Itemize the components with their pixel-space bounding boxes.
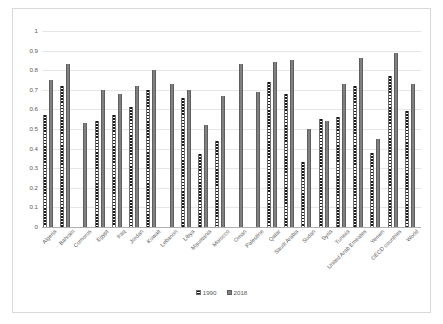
hatched-swatch [196, 290, 201, 295]
bar-1990 [336, 117, 340, 227]
x-tick-label: Qatar [268, 229, 282, 243]
bar-group [59, 31, 76, 227]
bar-2018 [49, 80, 53, 227]
x-tick-label: World [406, 229, 420, 243]
plot-area: 00.10.20.30.40.50.60.70.80.91 [42, 31, 421, 227]
y-tick-label: 0 [35, 224, 38, 230]
bar-group [128, 31, 145, 227]
chart-legend: 19902018 [13, 290, 430, 296]
bar-1990 [129, 107, 133, 227]
bar-group [352, 31, 369, 227]
bar-group [249, 31, 266, 227]
bar-1990 [146, 90, 150, 227]
y-tick-label: 0.7 [29, 87, 38, 93]
bar-group [94, 31, 111, 227]
bar-2018 [66, 64, 70, 227]
bar-1990 [112, 115, 116, 227]
bar-1990 [215, 141, 219, 227]
x-tick-label: Egypt [96, 229, 110, 243]
bar-group [335, 31, 352, 227]
bar-group [180, 31, 197, 227]
x-tick-label: Libya [183, 229, 196, 242]
solid-gray-swatch [227, 290, 232, 295]
bar-1990 [43, 115, 47, 227]
bar-group [232, 31, 249, 227]
bar-2018 [152, 70, 156, 227]
x-tick-label: Lebanon [160, 229, 179, 248]
y-tick-label: 0.5 [29, 126, 38, 132]
bar-1990 [388, 76, 392, 227]
bar-1990 [370, 153, 374, 227]
bar-2018 [170, 84, 174, 227]
bar-1990 [181, 98, 185, 227]
bar-group [369, 31, 386, 227]
x-tick-label: Algeria [42, 229, 58, 245]
bar-2018 [307, 129, 311, 227]
bar-2018 [83, 123, 87, 227]
bar-2018 [411, 84, 415, 227]
y-tick-label: 0.2 [29, 185, 38, 191]
bar-2018 [221, 96, 225, 227]
bar-group [300, 31, 317, 227]
bar-1990 [301, 162, 305, 227]
bar-1990 [284, 94, 288, 227]
bar-1990 [405, 111, 409, 227]
bar-group [145, 31, 162, 227]
x-tick-label: Jordan [128, 229, 144, 245]
bar-2018 [118, 94, 122, 227]
bar-group [197, 31, 214, 227]
bar-2018 [135, 86, 139, 227]
bar-1990 [95, 121, 99, 227]
bar-group [318, 31, 335, 227]
bars-layer [42, 31, 421, 227]
bar-1990 [198, 154, 202, 227]
bar-2018 [290, 60, 294, 227]
y-tick-label: 0.4 [29, 145, 38, 151]
bar-2018 [204, 125, 208, 227]
bar-2018 [239, 64, 243, 227]
bar-group [283, 31, 300, 227]
bar-2018 [101, 90, 105, 227]
bar-2018 [394, 53, 398, 227]
bar-group [111, 31, 128, 227]
bar-chart-figure: 00.10.20.30.40.50.60.70.80.91 AlgeriaBah… [12, 8, 431, 313]
bar-2018 [273, 62, 277, 227]
bar-2018 [187, 90, 191, 227]
bar-2018 [376, 139, 380, 227]
bar-2018 [325, 121, 329, 227]
x-tick-label: Iraq [116, 229, 127, 240]
bar-group [404, 31, 421, 227]
bar-group [42, 31, 59, 227]
bar-1990 [267, 82, 271, 227]
x-axis-labels: AlgeriaBahrainComorosEgyptIraqJordanKuwa… [42, 229, 421, 291]
x-tick-label: Syria [321, 229, 334, 242]
bar-2018 [256, 92, 260, 227]
legend-item[interactable]: 2018 [227, 290, 248, 296]
legend-item[interactable]: 1990 [196, 290, 217, 296]
bar-2018 [359, 58, 363, 227]
x-tick-label: Sudan [301, 229, 316, 244]
bar-group [163, 31, 180, 227]
y-tick-label: 0.3 [29, 165, 38, 171]
x-tick-label: Morocco [212, 229, 231, 248]
gridline [42, 227, 421, 228]
bar-1990 [353, 86, 357, 227]
y-tick-label: 0.9 [29, 47, 38, 53]
y-tick-label: 0.1 [29, 204, 38, 210]
bar-group [76, 31, 93, 227]
y-tick-label: 0.6 [29, 106, 38, 112]
bar-group [266, 31, 283, 227]
legend-label: 2018 [234, 290, 248, 296]
bar-group [387, 31, 404, 227]
legend-label: 1990 [203, 290, 217, 296]
bar-2018 [342, 84, 346, 227]
bar-1990 [60, 86, 64, 227]
bar-1990 [319, 119, 323, 227]
bar-group [214, 31, 231, 227]
y-tick-label: 1 [35, 28, 38, 34]
y-tick-label: 0.8 [29, 67, 38, 73]
